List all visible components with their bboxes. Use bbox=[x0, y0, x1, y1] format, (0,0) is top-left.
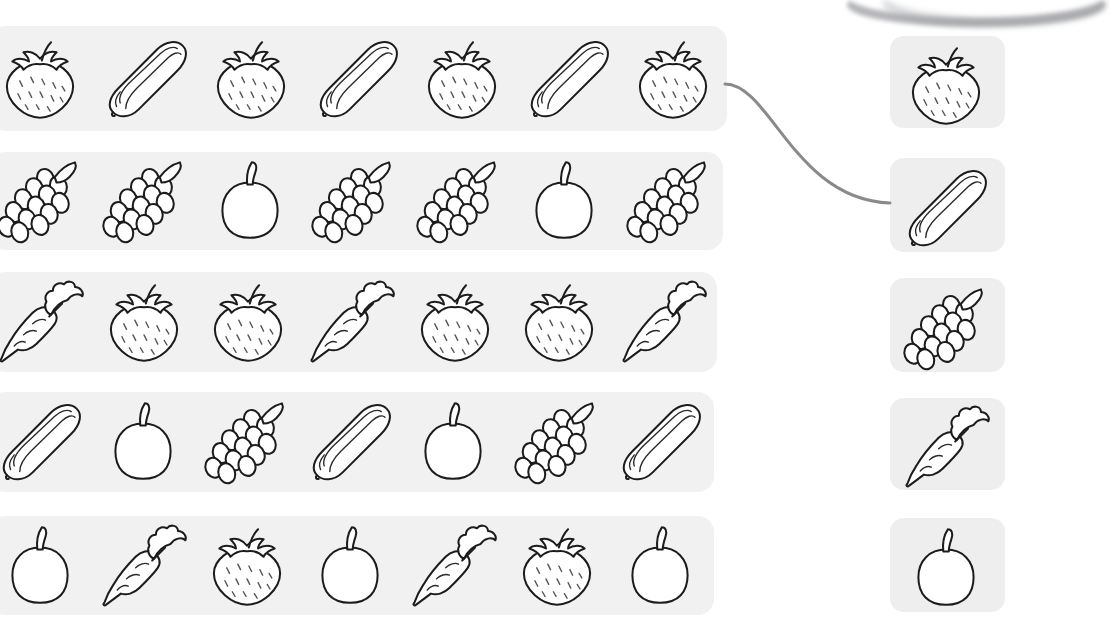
pattern-item-strawberry bbox=[625, 31, 721, 127]
answer-card-apple[interactable] bbox=[890, 518, 1005, 612]
pattern-item-carrot bbox=[95, 518, 191, 614]
carrot-icon bbox=[97, 520, 189, 612]
answer-card-art bbox=[900, 282, 996, 368]
pattern-row-items bbox=[0, 272, 717, 372]
pattern-item-carrot bbox=[405, 518, 501, 614]
pattern-row-5[interactable] bbox=[0, 516, 714, 615]
carrot-icon bbox=[305, 276, 397, 368]
grapes-icon bbox=[623, 155, 715, 247]
strawberry-icon bbox=[202, 276, 294, 368]
strawberry-icon bbox=[511, 520, 603, 612]
pattern-item-strawberry bbox=[414, 31, 510, 127]
pattern-item-apple bbox=[612, 518, 708, 614]
grapes-icon bbox=[0, 155, 86, 247]
cucumber-icon bbox=[614, 396, 706, 488]
apple-icon bbox=[304, 520, 396, 612]
pattern-item-grapes bbox=[97, 153, 193, 249]
strawberry-icon bbox=[98, 276, 190, 368]
strawberry-icon bbox=[513, 276, 605, 368]
answer-card-art bbox=[900, 522, 996, 608]
answer-card-art bbox=[900, 401, 996, 487]
strawberry-icon bbox=[205, 33, 297, 125]
pattern-row-items bbox=[0, 152, 723, 250]
strawberry-icon bbox=[201, 520, 293, 612]
pattern-item-apple bbox=[0, 518, 88, 614]
apple-icon bbox=[900, 522, 992, 614]
pattern-item-grapes bbox=[509, 394, 605, 490]
answer-card-grapes[interactable] bbox=[890, 278, 1005, 372]
pattern-item-grapes bbox=[0, 153, 88, 249]
pattern-row-2[interactable] bbox=[0, 152, 723, 250]
strawberry-icon bbox=[0, 33, 86, 125]
apple-icon bbox=[614, 520, 706, 612]
grapes-icon bbox=[900, 282, 992, 374]
cucumber-icon bbox=[0, 396, 86, 488]
pattern-item-strawberry bbox=[200, 274, 296, 370]
answer-card-carrot[interactable] bbox=[890, 398, 1005, 490]
answer-card-art bbox=[900, 162, 996, 248]
pattern-row-items bbox=[0, 26, 727, 131]
pattern-item-apple bbox=[405, 394, 501, 490]
cucumber-icon bbox=[304, 396, 396, 488]
cucumber-icon bbox=[311, 33, 403, 125]
pattern-item-cucumber bbox=[302, 394, 398, 490]
pattern-row-3[interactable] bbox=[0, 272, 717, 372]
pattern-row-items bbox=[0, 392, 714, 492]
pattern-item-carrot bbox=[303, 274, 399, 370]
strawberry-icon bbox=[900, 39, 992, 131]
pattern-item-cucumber bbox=[0, 394, 88, 490]
strawberry-icon bbox=[416, 33, 508, 125]
pattern-row-4[interactable] bbox=[0, 392, 714, 492]
grapes-icon bbox=[99, 155, 191, 247]
apple-icon bbox=[407, 396, 499, 488]
pattern-item-carrot bbox=[615, 274, 711, 370]
carrot-icon bbox=[0, 276, 86, 368]
pattern-item-strawberry bbox=[203, 31, 299, 127]
pattern-item-grapes bbox=[621, 153, 717, 249]
carrot-icon bbox=[407, 520, 499, 612]
pattern-row-1[interactable] bbox=[0, 26, 727, 131]
strawberry-icon bbox=[409, 276, 501, 368]
apple-icon bbox=[518, 155, 610, 247]
pattern-item-strawberry bbox=[407, 274, 503, 370]
pattern-item-strawberry bbox=[96, 274, 192, 370]
pattern-item-apple bbox=[202, 153, 298, 249]
pattern-item-carrot bbox=[0, 274, 88, 370]
pattern-item-apple bbox=[95, 394, 191, 490]
grapes-icon bbox=[511, 396, 603, 488]
scan-shadow-arc-2 bbox=[880, 0, 1110, 18]
pattern-row-items bbox=[0, 516, 714, 615]
pattern-item-cucumber bbox=[520, 31, 616, 127]
pattern-item-strawberry bbox=[199, 518, 295, 614]
grapes-icon bbox=[201, 396, 293, 488]
pattern-item-strawberry bbox=[511, 274, 607, 370]
pattern-item-cucumber bbox=[309, 31, 405, 127]
carrot-icon bbox=[617, 276, 709, 368]
apple-icon bbox=[97, 396, 189, 488]
grapes-icon bbox=[308, 155, 400, 247]
pattern-item-apple bbox=[302, 518, 398, 614]
scan-shadow-arc bbox=[846, 0, 1106, 18]
strawberry-icon bbox=[627, 33, 719, 125]
apple-icon bbox=[0, 520, 86, 612]
carrot-icon bbox=[900, 401, 992, 493]
connector-row1-cucumber[interactable] bbox=[700, 50, 920, 240]
cucumber-icon bbox=[900, 162, 992, 254]
apple-icon bbox=[204, 155, 296, 247]
answer-card-cucumber[interactable] bbox=[890, 158, 1005, 252]
pattern-item-apple bbox=[516, 153, 612, 249]
pattern-item-strawberry bbox=[509, 518, 605, 614]
pattern-item-grapes bbox=[411, 153, 507, 249]
cucumber-icon bbox=[100, 33, 192, 125]
grapes-icon bbox=[413, 155, 505, 247]
answer-card-art bbox=[900, 39, 996, 125]
pattern-item-grapes bbox=[199, 394, 295, 490]
pattern-item-grapes bbox=[306, 153, 402, 249]
pattern-item-cucumber bbox=[612, 394, 708, 490]
connector-layer bbox=[700, 50, 920, 240]
pattern-item-strawberry bbox=[0, 31, 88, 127]
cucumber-icon bbox=[522, 33, 614, 125]
answer-card-strawberry[interactable] bbox=[890, 36, 1005, 128]
pattern-item-cucumber bbox=[98, 31, 194, 127]
